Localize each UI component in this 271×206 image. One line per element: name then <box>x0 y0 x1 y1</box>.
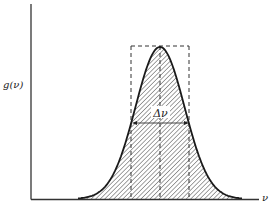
x-axis-label: ν <box>262 192 268 203</box>
lineshape-figure: Δν g(ν) ν <box>0 0 271 206</box>
y-axis-label: g(ν) <box>3 79 23 90</box>
width-label: Δν <box>152 107 168 120</box>
